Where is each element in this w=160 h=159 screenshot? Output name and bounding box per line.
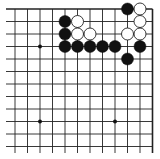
- black-stone[interactable]: [122, 3, 134, 15]
- black-stone[interactable]: [134, 41, 146, 53]
- white-stone[interactable]: [122, 28, 134, 40]
- black-stone[interactable]: [72, 41, 84, 53]
- black-stone[interactable]: [59, 16, 71, 28]
- white-stone[interactable]: [134, 3, 146, 15]
- white-stone[interactable]: [72, 28, 84, 40]
- white-stone[interactable]: [134, 16, 146, 28]
- black-stone[interactable]: [59, 41, 71, 53]
- black-stone[interactable]: [109, 41, 121, 53]
- black-stone[interactable]: [97, 41, 109, 53]
- white-stone[interactable]: [72, 16, 84, 28]
- black-stone[interactable]: [122, 53, 134, 65]
- white-stone[interactable]: [84, 28, 96, 40]
- star-point: [38, 45, 42, 49]
- star-point: [38, 120, 42, 124]
- black-stone[interactable]: [59, 28, 71, 40]
- white-stone[interactable]: [134, 28, 146, 40]
- go-board[interactable]: [0, 0, 160, 159]
- black-stone[interactable]: [84, 41, 96, 53]
- star-point: [113, 120, 117, 124]
